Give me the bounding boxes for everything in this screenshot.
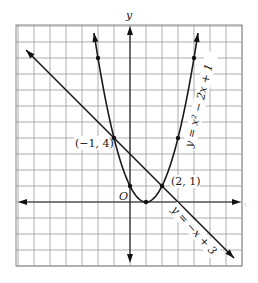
data-point xyxy=(176,136,180,140)
x-axis-left-arrow-icon xyxy=(18,199,27,205)
data-point xyxy=(144,200,148,204)
point-label-a: (−1, 4) xyxy=(75,137,114,150)
graph: y : O (−1, 4) (2, 1) y = x² − 2x + 1 y =… xyxy=(0,0,258,283)
parabola-left-arrow-icon xyxy=(92,33,98,42)
data-point xyxy=(160,184,164,188)
origin-label: O xyxy=(119,190,128,203)
y-axis-down-arrow-icon xyxy=(127,254,133,263)
x-axis-right-arrow-icon xyxy=(232,199,241,205)
x-axis-label: : xyxy=(244,199,247,208)
y-axis xyxy=(127,26,133,263)
parabola-right-arrow-icon xyxy=(194,33,200,42)
data-point xyxy=(96,56,100,60)
y-axis-label: y xyxy=(125,9,133,22)
y-axis-up-arrow-icon xyxy=(127,26,133,35)
data-point xyxy=(192,56,196,60)
data-point xyxy=(128,184,132,188)
point-label-b: (2, 1) xyxy=(171,175,201,188)
